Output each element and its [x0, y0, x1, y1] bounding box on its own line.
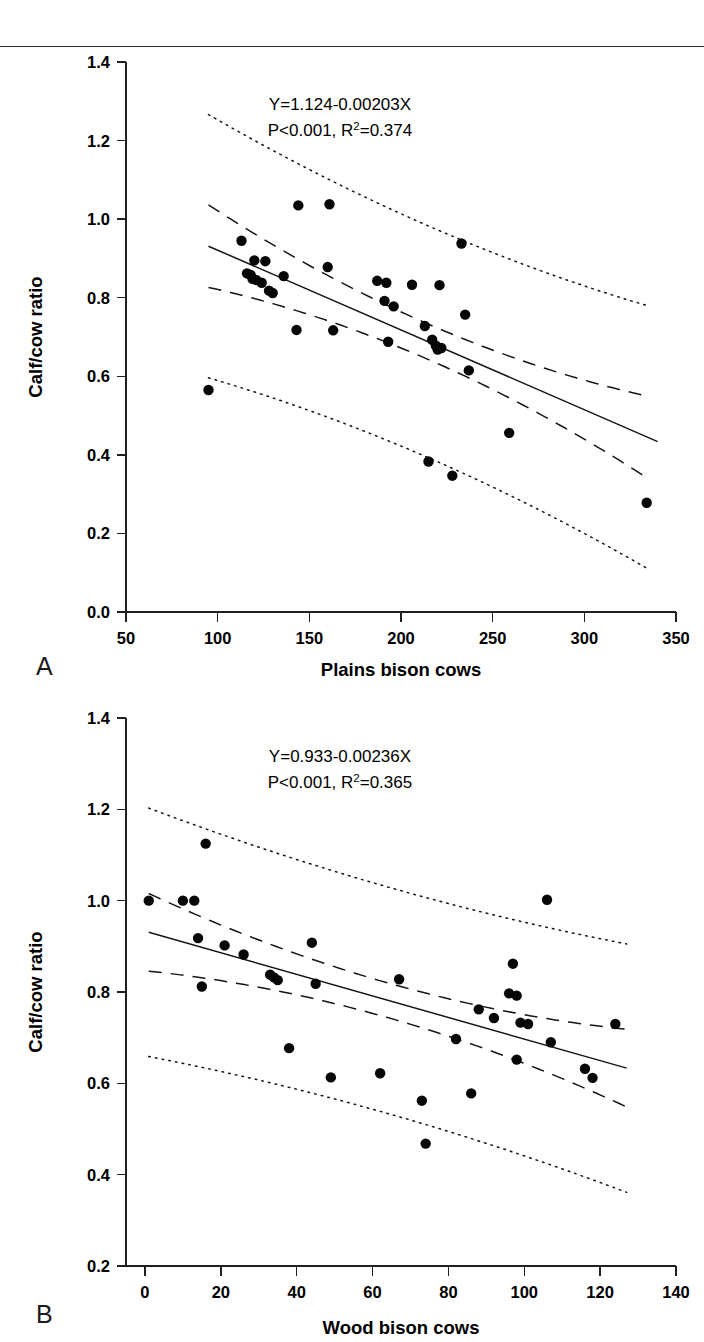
data-point	[256, 278, 266, 288]
data-point	[508, 958, 518, 968]
prediction-band-upper	[209, 115, 649, 306]
data-point	[193, 933, 203, 943]
data-point	[504, 428, 514, 438]
prediction-band-upper	[149, 808, 627, 944]
prediction-band-lower	[149, 1057, 627, 1193]
x-tick-label: 350	[662, 629, 690, 647]
y-tick-label: 1.4	[87, 709, 111, 727]
data-point	[236, 236, 246, 246]
data-point	[189, 895, 199, 905]
data-point	[489, 1013, 499, 1023]
figure-page: 0.00.20.40.60.81.01.21.45010015020025030…	[0, 0, 704, 1342]
data-point	[278, 271, 288, 281]
data-point	[260, 256, 270, 266]
confidence-band-upper	[209, 205, 649, 396]
x-tick-label: 150	[296, 629, 324, 647]
data-point	[474, 1004, 484, 1014]
data-point	[451, 1034, 461, 1044]
data-point	[447, 470, 457, 480]
x-tick-label: 60	[363, 1283, 381, 1301]
regression-line	[149, 932, 627, 1068]
y-tick-label: 0.2	[87, 1257, 110, 1275]
y-axis-title: Calf/cow ratio	[25, 931, 46, 1052]
data-point	[420, 321, 430, 331]
x-tick-label: 100	[511, 1283, 539, 1301]
data-point	[546, 1037, 556, 1047]
x-tick-label: 100	[204, 629, 232, 647]
data-point	[383, 337, 393, 347]
prediction-band-lower	[209, 378, 649, 569]
data-point	[197, 981, 207, 991]
data-point	[379, 296, 389, 306]
y-tick-label: 1.4	[87, 53, 111, 71]
data-point	[144, 895, 154, 905]
data-point	[249, 255, 259, 265]
data-point	[434, 280, 444, 290]
x-tick-label: 120	[586, 1283, 614, 1301]
data-point	[267, 288, 277, 298]
panel-a-letter: A	[36, 652, 53, 681]
y-tick-label: 1.2	[87, 800, 110, 818]
data-point	[381, 278, 391, 288]
regression-stats: P<0.001, R2=0.374	[268, 120, 412, 140]
regression-stats: P<0.001, R2=0.365	[268, 772, 412, 792]
data-point	[203, 385, 213, 395]
panel-a: 0.00.20.40.60.81.01.21.45010015020025030…	[0, 40, 704, 680]
y-axis-title: Calf/cow ratio	[25, 276, 46, 397]
data-point	[310, 979, 320, 989]
data-point	[580, 1064, 590, 1074]
data-point	[436, 343, 446, 353]
x-tick-label: 200	[387, 629, 415, 647]
data-point	[511, 990, 521, 1000]
data-point	[523, 1019, 533, 1029]
x-tick-label: 50	[117, 629, 135, 647]
y-tick-label: 0.8	[87, 983, 110, 1001]
panel-a-plot: 0.00.20.40.60.81.01.21.45010015020025030…	[0, 40, 704, 680]
x-axis-title: Wood bison cows	[323, 1317, 480, 1338]
x-tick-label: 20	[212, 1283, 230, 1301]
data-point	[464, 365, 474, 375]
data-point	[284, 1043, 294, 1053]
data-point	[456, 238, 466, 248]
regression-equation: Y=0.933-0.00236X	[269, 747, 411, 766]
x-tick-label: 300	[571, 629, 599, 647]
confidence-band-upper	[149, 894, 627, 1030]
data-point	[610, 1019, 620, 1029]
x-axis-title: Plains bison cows	[321, 659, 481, 680]
data-point	[322, 262, 332, 272]
x-tick-label: 140	[662, 1283, 690, 1301]
confidence-band-lower	[149, 971, 627, 1107]
y-tick-label: 0.2	[87, 524, 110, 542]
y-tick-label: 0.0	[87, 603, 110, 621]
data-point	[641, 498, 651, 508]
data-point	[326, 1072, 336, 1082]
data-point	[291, 325, 301, 335]
y-tick-label: 1.0	[87, 892, 110, 910]
data-point	[511, 1054, 521, 1064]
data-point	[542, 895, 552, 905]
data-point	[417, 1095, 427, 1105]
data-point	[178, 895, 188, 905]
regression-equation: Y=1.124-0.00203X	[269, 95, 411, 114]
data-point	[324, 199, 334, 209]
data-point	[200, 838, 210, 848]
data-point	[460, 309, 470, 319]
data-point	[466, 1088, 476, 1098]
panel-b-plot: 0.20.40.60.81.01.21.4020406080100120140W…	[0, 700, 704, 1342]
data-point	[587, 1073, 597, 1083]
confidence-band-lower	[209, 287, 649, 478]
x-tick-label: 40	[288, 1283, 306, 1301]
data-point	[219, 940, 229, 950]
data-point	[328, 325, 338, 335]
data-point	[273, 975, 283, 985]
data-point	[372, 276, 382, 286]
panel-b-letter: B	[36, 1300, 53, 1329]
data-point	[388, 301, 398, 311]
data-point	[420, 1138, 430, 1148]
y-tick-label: 0.4	[87, 1166, 111, 1184]
data-point	[375, 1068, 385, 1078]
x-tick-label: 0	[140, 1283, 149, 1301]
data-point	[423, 456, 433, 466]
panel-b: 0.20.40.60.81.01.21.4020406080100120140W…	[0, 700, 704, 1342]
x-tick-label: 250	[479, 629, 507, 647]
